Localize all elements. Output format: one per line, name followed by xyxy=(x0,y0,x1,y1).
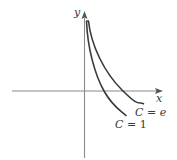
diagram-canvas: y x C = e C = 1 xyxy=(0,0,177,160)
y-axis-arrow-icon xyxy=(82,11,88,19)
curve-c-1 xyxy=(87,21,127,116)
x-axis xyxy=(12,88,163,94)
x-axis-label: x xyxy=(156,92,163,105)
y-axis-label: y xyxy=(73,6,81,19)
label-c-1: C = 1 xyxy=(115,118,147,131)
curve-c-e xyxy=(89,21,145,104)
